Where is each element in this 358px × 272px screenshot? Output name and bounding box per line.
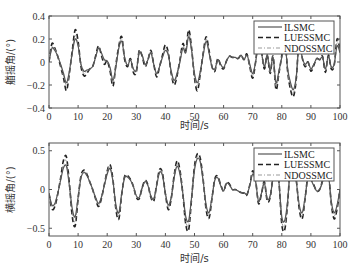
y-tick-label: 0 (40, 57, 45, 68)
x-tick-label: 80 (277, 239, 287, 250)
x-tick-label: 40 (160, 111, 170, 122)
legend-label-luessmc: LUESSMC (284, 159, 330, 170)
plot-roll-angle: 0102030405060708090100−0.500.5时间/s横摇角/(°… (4, 143, 348, 264)
legend: ILSMCLUESSMCNDOSSMC (254, 21, 334, 54)
plot-yaw-angle: 0102030405060708090100−0.4−0.200.20.4时间/… (4, 11, 348, 132)
y-tick-label: 0.2 (33, 34, 46, 45)
y-tick-label: −0.4 (27, 103, 45, 114)
x-tick-label: 10 (73, 239, 83, 250)
x-tick-label: 70 (248, 111, 258, 122)
x-tick-label: 20 (102, 111, 112, 122)
x-tick-label: 60 (219, 239, 229, 250)
x-tick-label: 30 (131, 239, 141, 250)
x-tick-label: 50 (190, 239, 200, 250)
x-tick-label: 100 (333, 239, 348, 250)
x-tick-label: 80 (277, 111, 287, 122)
y-tick-label: 0.4 (33, 11, 46, 22)
y-tick-label: 0.5 (33, 145, 46, 156)
legend-label-ndossmc: NDOSSMC (284, 43, 333, 54)
legend: ILSMCLUESSMCNDOSSMC (254, 148, 334, 181)
x-tick-label: 90 (306, 239, 316, 250)
figure: 0102030405060708090100−0.4−0.200.20.4时间/… (0, 0, 358, 272)
x-tick-label: 30 (131, 111, 141, 122)
x-tick-label: 10 (73, 111, 83, 122)
x-tick-label: 20 (102, 239, 112, 250)
x-tick-label: 60 (219, 111, 229, 122)
y-tick-label: 0 (40, 184, 45, 195)
x-axis-label: 时间/s (180, 119, 209, 131)
y-tick-label: −0.5 (27, 223, 45, 234)
x-tick-label: 40 (160, 239, 170, 250)
x-tick-label: 90 (306, 111, 316, 122)
y-axis-label: 艏摇角/(°) (4, 39, 16, 85)
x-tick-label: 0 (47, 111, 52, 122)
x-tick-label: 70 (248, 239, 258, 250)
legend-label-ilsmc: ILSMC (284, 22, 315, 33)
legend-label-luessmc: LUESSMC (284, 32, 330, 43)
x-axis-label: 时间/s (180, 252, 209, 264)
y-tick-label: −0.2 (27, 80, 45, 91)
legend-label-ilsmc: ILSMC (284, 149, 315, 160)
y-axis-label: 横摇角/(°) (4, 166, 16, 212)
legend-label-ndossmc: NDOSSMC (284, 170, 333, 181)
x-tick-label: 100 (333, 111, 348, 122)
x-tick-label: 0 (47, 239, 52, 250)
